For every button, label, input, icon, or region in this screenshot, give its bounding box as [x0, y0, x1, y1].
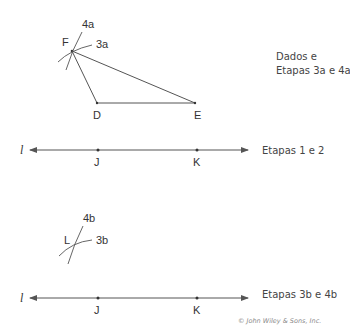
label-f: F — [62, 36, 69, 48]
triangle-def: 4a F 3a D E Dados e Etapas 3a e 4a — [58, 18, 350, 121]
label-j: J — [94, 156, 100, 168]
arc-4b — [68, 226, 83, 264]
point-k-dot — [196, 149, 199, 152]
construction-diagram: 4a F 3a D E Dados e Etapas 3a e 4a l J K… — [0, 0, 350, 334]
label-4a: 4a — [82, 18, 95, 30]
label-4b: 4b — [83, 212, 95, 224]
label-e: E — [194, 109, 201, 121]
line-l-steps-3b-4b: l J K Etapas 3b e 4b — [20, 289, 337, 316]
label-k2: K — [193, 304, 201, 316]
label-j2: J — [94, 304, 100, 316]
caption-dados: Dados e — [276, 51, 317, 62]
label-k: K — [193, 156, 201, 168]
arcs-point-l: 4b L 3b — [59, 212, 108, 264]
label-3a: 3a — [96, 38, 109, 50]
copyright-text: © John Wiley & Sons, Inc. — [238, 317, 321, 325]
segment-fe — [72, 51, 195, 103]
point-k2-dot — [196, 297, 199, 300]
label-3b: 3b — [96, 234, 108, 246]
caption-etapas-3b-4b: Etapas 3b e 4b — [262, 289, 337, 300]
label-l: L — [64, 234, 70, 246]
point-j-dot — [97, 149, 100, 152]
label-d: D — [93, 109, 101, 121]
label-line-l: l — [20, 143, 24, 157]
point-j2-dot — [97, 297, 100, 300]
point-d-dot — [96, 102, 98, 104]
line-l-steps-1-2: l J K Etapas 1 e 2 — [20, 143, 324, 168]
segment-fd — [72, 51, 97, 103]
point-e-dot — [194, 102, 196, 104]
label-line-l-2: l — [20, 291, 24, 305]
caption-etapas-3a-4a: Etapas 3a e 4a — [276, 65, 350, 76]
caption-etapas-1-2: Etapas 1 e 2 — [262, 145, 324, 156]
